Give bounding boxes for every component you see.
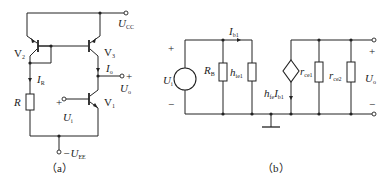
ground-icon (262, 114, 280, 127)
uo-label: Uo (120, 82, 131, 95)
ui-terminal (62, 97, 66, 101)
voltage-source-ui (174, 68, 196, 90)
hfe-ib1-label: hfeIb1 (264, 87, 284, 100)
uo-plus: + (126, 70, 132, 82)
resistor-rb (219, 63, 227, 81)
caption-a: （a） (46, 162, 73, 174)
junction-dot (250, 112, 253, 115)
plus-left: + (168, 42, 174, 54)
circuit-figure: UCC V2 V3 Io (0, 0, 391, 186)
io-label: Io (105, 62, 113, 75)
ir-arrow (28, 78, 32, 82)
circuit-b: Ib1 + − Ui RB hie1 (163, 25, 376, 174)
ib1-label: Ib1 (228, 25, 239, 38)
junction-dot (221, 112, 224, 115)
transistor-v3 (89, 13, 100, 76)
hie1-label: hie1 (230, 66, 243, 79)
v1-label: V1 (104, 96, 115, 109)
v2-label: V2 (14, 47, 25, 60)
caption-b: （b） (262, 162, 290, 174)
resistor-r (26, 94, 34, 110)
uo-output-label: Uo (365, 72, 376, 85)
resistor-rce1 (315, 62, 323, 82)
resistor-rce2 (347, 62, 355, 82)
transistor-v2 (27, 13, 51, 63)
ui-label: Ui (63, 111, 73, 124)
rb-label: RB (203, 64, 215, 77)
resistor-hie1 (248, 63, 256, 81)
minus-right: − (369, 98, 375, 110)
circuit-a: UCC V2 V3 Io (13, 11, 134, 174)
dependent-current-source (283, 40, 299, 114)
uee-label: −UEE (63, 147, 86, 160)
io-arrow (96, 68, 100, 72)
ui-plus: + (56, 96, 62, 108)
ui-source-label: Ui (163, 74, 173, 87)
r-label: R (13, 96, 21, 108)
uo-terminal-plus (372, 38, 376, 42)
transistor-v1 (66, 76, 98, 136)
rce1-label: rce1 (300, 65, 313, 78)
minus-left: − (168, 98, 174, 110)
rce2-label: rce2 (329, 69, 342, 82)
ib1-arrow (237, 38, 241, 42)
uee-terminal (57, 150, 61, 154)
ucc-label: UCC (118, 17, 134, 30)
ir-label: IR (36, 73, 45, 86)
plus-right: + (369, 45, 375, 57)
uo-terminal (120, 74, 124, 78)
ucc-terminal (124, 11, 128, 15)
uo-terminal-minus (372, 112, 376, 116)
v3-label: V3 (104, 46, 115, 59)
